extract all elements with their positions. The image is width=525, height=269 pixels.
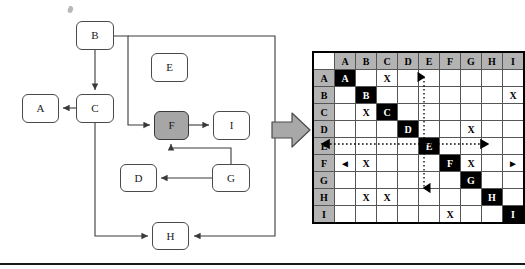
edge-b-to-f bbox=[114, 36, 150, 125]
matrix-cell-id[interactable] bbox=[398, 206, 419, 224]
matrix-cell-aa[interactable]: A bbox=[335, 70, 356, 87]
matrix-cell-gh[interactable] bbox=[482, 172, 503, 189]
matrix-cell-hh[interactable]: H bbox=[482, 189, 503, 206]
matrix-cell-ca[interactable] bbox=[335, 104, 356, 121]
matrix-cell-be[interactable] bbox=[419, 87, 440, 104]
matrix-cell-eb[interactable] bbox=[356, 138, 377, 155]
matrix-cell-dg[interactable]: X bbox=[461, 121, 482, 138]
matrix-cell-gb[interactable] bbox=[356, 172, 377, 189]
matrix-cell-hi[interactable] bbox=[503, 189, 525, 206]
matrix-cell-ef[interactable] bbox=[440, 138, 461, 155]
matrix-cell-ia[interactable] bbox=[335, 206, 356, 224]
matrix-cell-hd[interactable] bbox=[398, 189, 419, 206]
matrix-cell-gf[interactable] bbox=[440, 172, 461, 189]
matrix-cell-bf[interactable] bbox=[440, 87, 461, 104]
matrix-cell-ig[interactable] bbox=[461, 206, 482, 224]
matrix-cell-ae[interactable] bbox=[419, 70, 440, 87]
flowchart-node-g[interactable]: G bbox=[212, 164, 250, 192]
matrix-cell-de[interactable] bbox=[419, 121, 440, 138]
matrix-cell-bi[interactable]: X bbox=[503, 87, 525, 104]
flowchart-node-h[interactable]: H bbox=[152, 222, 189, 250]
matrix-cell-hg[interactable] bbox=[461, 189, 482, 206]
matrix-cell-ee[interactable]: E bbox=[419, 138, 440, 155]
matrix-cell-db[interactable] bbox=[356, 121, 377, 138]
flowchart-node-c[interactable]: C bbox=[76, 94, 114, 123]
matrix-cell-ib[interactable] bbox=[356, 206, 377, 224]
matrix-cell-ff[interactable]: F bbox=[440, 155, 461, 172]
matrix-cell-ei[interactable] bbox=[503, 138, 525, 155]
matrix-cell-hb[interactable]: X bbox=[356, 189, 377, 206]
matrix-cell-fg[interactable]: X bbox=[461, 155, 482, 172]
matrix-cell-fe[interactable] bbox=[419, 155, 440, 172]
matrix-cell-cf[interactable] bbox=[440, 104, 461, 121]
matrix-cell-ih[interactable] bbox=[482, 206, 503, 224]
matrix-cell-fb[interactable]: X bbox=[356, 155, 377, 172]
matrix-cell-ab[interactable] bbox=[356, 70, 377, 87]
matrix-cell-fc[interactable] bbox=[377, 155, 398, 172]
matrix-col-header-c: C bbox=[377, 52, 398, 70]
matrix-cell-gi[interactable] bbox=[503, 172, 525, 189]
matrix-cell-ge[interactable] bbox=[419, 172, 440, 189]
matrix-cell-ag[interactable] bbox=[461, 70, 482, 87]
matrix-cell-cb[interactable]: X bbox=[356, 104, 377, 121]
matrix-col-header-d: D bbox=[398, 52, 419, 70]
matrix-cell-ba[interactable] bbox=[335, 87, 356, 104]
matrix-cell-ii[interactable]: I bbox=[503, 206, 525, 224]
matrix-corner-cell bbox=[313, 52, 335, 70]
matrix-row-header-f: F bbox=[313, 155, 335, 172]
matrix-cell-fa[interactable]: ◄ bbox=[335, 155, 356, 172]
matrix-cell-bg[interactable] bbox=[461, 87, 482, 104]
matrix-cell-dc[interactable] bbox=[377, 121, 398, 138]
flowchart-node-i[interactable]: I bbox=[213, 111, 250, 140]
matrix-cell-fi[interactable]: ► bbox=[503, 155, 525, 172]
matrix-cell-if[interactable]: X bbox=[440, 206, 461, 224]
matrix-cell-cg[interactable] bbox=[461, 104, 482, 121]
flowchart-node-d[interactable]: D bbox=[120, 164, 157, 192]
matrix-cell-bd[interactable] bbox=[398, 87, 419, 104]
matrix-cell-da[interactable] bbox=[335, 121, 356, 138]
matrix-cell-ce[interactable] bbox=[419, 104, 440, 121]
matrix-cell-hc[interactable]: X bbox=[377, 189, 398, 206]
matrix-cell-df[interactable] bbox=[440, 121, 461, 138]
matrix-cell-ic[interactable] bbox=[377, 206, 398, 224]
matrix-cell-ec[interactable] bbox=[377, 138, 398, 155]
matrix-cell-cd[interactable] bbox=[398, 104, 419, 121]
flowchart-node-f[interactable]: F bbox=[154, 111, 189, 140]
matrix-cell-ch[interactable] bbox=[482, 104, 503, 121]
matrix-cell-ai[interactable] bbox=[503, 70, 525, 87]
matrix-cell-ci[interactable] bbox=[503, 104, 525, 121]
matrix-cell-he[interactable] bbox=[419, 189, 440, 206]
matrix-cell-af[interactable] bbox=[440, 70, 461, 87]
matrix-row: CXC bbox=[313, 104, 524, 121]
matrix-cell-ac[interactable]: X bbox=[377, 70, 398, 87]
matrix-cell-ha[interactable] bbox=[335, 189, 356, 206]
matrix-cell-bc[interactable] bbox=[377, 87, 398, 104]
matrix-cell-ed[interactable] bbox=[398, 138, 419, 155]
matrix-row-header-a: A bbox=[313, 70, 335, 87]
matrix-cell-cc[interactable]: C bbox=[377, 104, 398, 121]
matrix-cell-gd[interactable] bbox=[398, 172, 419, 189]
matrix-cell-bh[interactable] bbox=[482, 87, 503, 104]
matrix-cell-fh[interactable] bbox=[482, 155, 503, 172]
flowchart-node-b[interactable]: B bbox=[76, 21, 114, 50]
matrix-cell-eg[interactable] bbox=[461, 138, 482, 155]
matrix-cell-bb[interactable]: B bbox=[356, 87, 377, 104]
matrix-cell-eh[interactable] bbox=[482, 138, 503, 155]
flowchart-node-a[interactable]: A bbox=[22, 94, 59, 123]
matrix-cell-gg[interactable]: G bbox=[461, 172, 482, 189]
flowchart-node-e[interactable]: E bbox=[151, 53, 188, 82]
matrix-cell-dh[interactable] bbox=[482, 121, 503, 138]
matrix-cell-di[interactable] bbox=[503, 121, 525, 138]
matrix-cell-ea[interactable] bbox=[335, 138, 356, 155]
matrix-cell-ga[interactable] bbox=[335, 172, 356, 189]
matrix-cell-ah[interactable] bbox=[482, 70, 503, 87]
matrix-col-header-g: G bbox=[461, 52, 482, 70]
figure-canvas: A B C D E F G H I bbox=[0, 0, 525, 269]
matrix-cell-hf[interactable] bbox=[440, 189, 461, 206]
matrix-cell-ad[interactable] bbox=[398, 70, 419, 87]
matrix-cell-fd[interactable] bbox=[398, 155, 419, 172]
node-label: I bbox=[230, 120, 234, 131]
matrix-cell-ie[interactable] bbox=[419, 206, 440, 224]
matrix-cell-dd[interactable]: D bbox=[398, 121, 419, 138]
matrix-cell-gc[interactable] bbox=[377, 172, 398, 189]
